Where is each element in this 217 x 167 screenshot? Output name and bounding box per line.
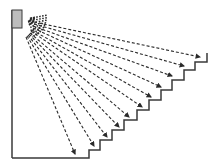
dashed-arrow (31, 31, 142, 107)
dashed-arrow (27, 36, 94, 146)
dashed-arrow (34, 22, 200, 57)
dashed-arrow (26, 37, 75, 154)
staircase-outline (12, 53, 207, 158)
signal-rays (26, 22, 200, 154)
emitter-staircase-diagram (0, 0, 217, 167)
wave-arc (28, 17, 31, 22)
staircase (12, 53, 207, 158)
dashed-arrow (33, 28, 161, 87)
dashed-arrow (34, 24, 184, 66)
dashed-arrow (30, 33, 129, 117)
emitter-device (12, 10, 22, 28)
emitter-box (12, 10, 22, 28)
